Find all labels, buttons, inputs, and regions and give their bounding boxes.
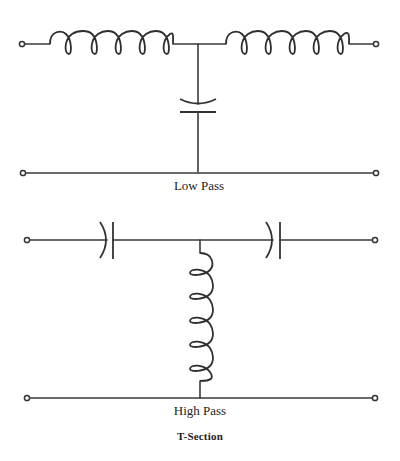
low-pass-circuit bbox=[19, 31, 378, 176]
high-pass-circuit bbox=[24, 222, 377, 401]
high-pass-output-terminal-top bbox=[372, 237, 377, 242]
low-pass-input-terminal-top bbox=[19, 41, 24, 46]
inductor-icon bbox=[190, 253, 213, 381]
high-pass-input-terminal-top bbox=[24, 237, 29, 242]
diagram-title: T-Section bbox=[177, 430, 223, 442]
high-pass-input-terminal-bottom bbox=[24, 395, 29, 400]
high-pass-output-terminal-bottom bbox=[372, 395, 377, 400]
inductor-icon bbox=[226, 31, 349, 54]
high-pass-label: High Pass bbox=[174, 403, 226, 419]
low-pass-output-terminal-bottom bbox=[373, 170, 378, 175]
low-pass-input-terminal-bottom bbox=[20, 170, 25, 175]
low-pass-output-terminal-top bbox=[373, 41, 378, 46]
t-section-diagram bbox=[0, 0, 400, 461]
low-pass-label: Low Pass bbox=[174, 178, 224, 194]
inductor-icon bbox=[50, 31, 173, 54]
